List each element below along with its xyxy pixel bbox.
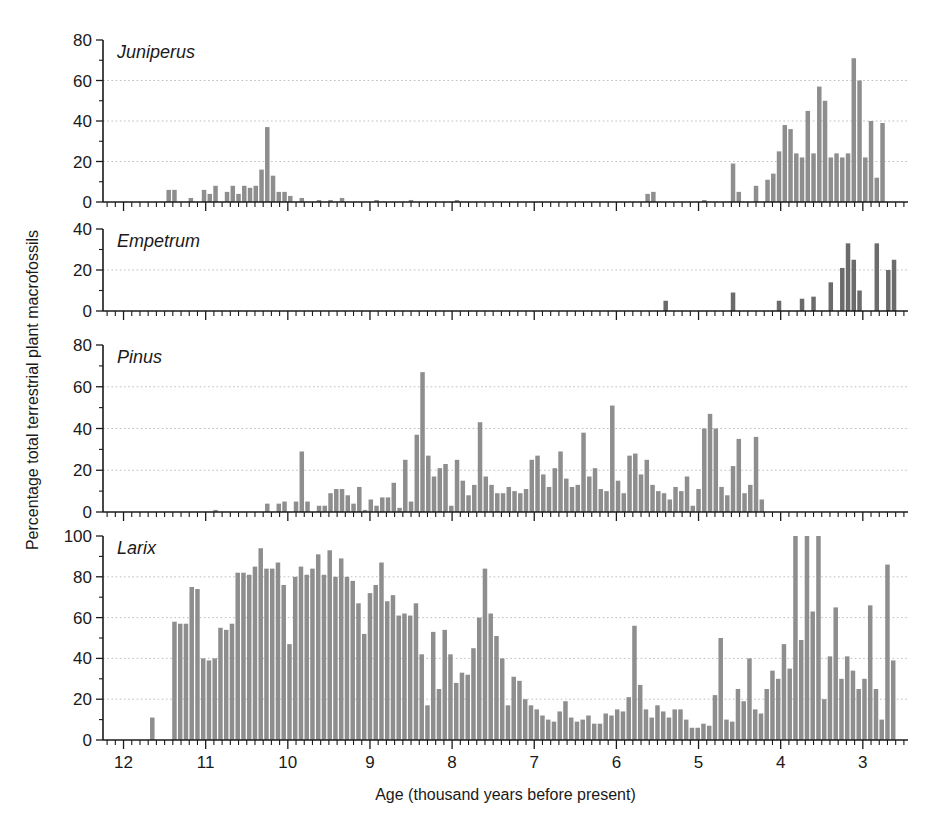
bar xyxy=(810,611,814,740)
bar xyxy=(254,186,258,202)
bar xyxy=(622,493,626,512)
bar xyxy=(690,728,694,740)
bar-series-empetrum xyxy=(663,243,896,311)
bar xyxy=(632,626,636,740)
bar xyxy=(236,194,240,202)
bar xyxy=(277,504,281,512)
bar xyxy=(172,622,176,740)
bar xyxy=(863,157,867,202)
bar xyxy=(518,493,522,512)
bar xyxy=(357,487,361,512)
bar xyxy=(184,624,188,740)
bar xyxy=(339,558,343,740)
bar xyxy=(627,456,631,512)
bar xyxy=(800,299,804,311)
bar xyxy=(517,681,521,740)
bar xyxy=(547,487,551,512)
bar xyxy=(662,493,666,512)
bar-series-juniperus xyxy=(166,58,884,202)
bar xyxy=(449,506,453,512)
bar xyxy=(288,196,292,202)
bar xyxy=(392,483,396,512)
bar xyxy=(592,724,596,740)
bar xyxy=(616,481,620,512)
panel-title-larix: Larix xyxy=(117,538,157,558)
bar xyxy=(385,601,389,740)
bar xyxy=(553,468,557,512)
bar xyxy=(369,499,373,512)
bar xyxy=(742,493,746,512)
bar xyxy=(833,607,837,740)
y-tick-label: 0 xyxy=(83,731,92,750)
bar xyxy=(787,669,791,740)
bar xyxy=(166,190,170,202)
bar xyxy=(576,485,580,512)
bar xyxy=(465,675,469,740)
bar xyxy=(834,153,838,202)
bar xyxy=(247,575,251,740)
bar xyxy=(777,151,781,202)
bar xyxy=(615,709,619,740)
bar xyxy=(189,587,193,740)
bar xyxy=(875,243,879,311)
x-tick-label: 8 xyxy=(447,753,456,772)
bar xyxy=(225,192,229,202)
bar xyxy=(840,268,844,311)
bar xyxy=(782,644,786,740)
bar xyxy=(754,437,758,512)
bar xyxy=(879,720,883,740)
bar xyxy=(875,178,879,202)
bar xyxy=(351,504,355,512)
bar xyxy=(281,585,285,740)
bar xyxy=(304,575,308,740)
bar xyxy=(581,433,585,512)
bar xyxy=(432,477,436,512)
bar xyxy=(264,569,268,740)
bar xyxy=(506,705,510,740)
bar xyxy=(374,506,378,512)
bar xyxy=(178,624,182,740)
y-tick-label: 80 xyxy=(73,31,92,50)
y-tick-label: 60 xyxy=(73,609,92,628)
bar xyxy=(651,192,655,202)
bar xyxy=(541,474,545,512)
bar xyxy=(402,614,406,740)
bar xyxy=(512,491,516,512)
bar xyxy=(569,718,573,740)
bar xyxy=(419,654,423,740)
bar xyxy=(770,671,774,740)
panel-pinus: 020406080Pinus xyxy=(73,336,908,522)
bar xyxy=(328,493,332,512)
bar xyxy=(741,701,745,740)
bar xyxy=(714,429,718,513)
bar xyxy=(333,577,337,740)
bar xyxy=(719,487,723,512)
y-axis-title: Percentage total terrestrial plant macro… xyxy=(24,230,41,550)
bar xyxy=(885,565,889,740)
bar xyxy=(242,186,246,202)
bar xyxy=(346,495,350,512)
bar xyxy=(684,720,688,740)
bar xyxy=(713,695,717,740)
bar xyxy=(776,679,780,740)
bar xyxy=(460,673,464,740)
x-tick-label: 6 xyxy=(612,753,621,772)
bar xyxy=(438,468,442,512)
y-tick-label: 80 xyxy=(73,336,92,355)
bar xyxy=(345,577,349,740)
bar xyxy=(523,699,527,740)
bar xyxy=(731,164,735,202)
bar xyxy=(754,186,758,202)
bar xyxy=(461,481,465,512)
bar xyxy=(765,180,769,202)
bar xyxy=(471,648,475,740)
bar xyxy=(823,101,827,202)
bar xyxy=(259,170,263,202)
y-tick-label: 40 xyxy=(73,649,92,668)
bar xyxy=(276,563,280,740)
bar xyxy=(546,720,550,740)
x-tick-label: 11 xyxy=(197,753,215,772)
bar xyxy=(282,192,286,202)
bar xyxy=(207,660,211,740)
bar xyxy=(604,491,608,512)
